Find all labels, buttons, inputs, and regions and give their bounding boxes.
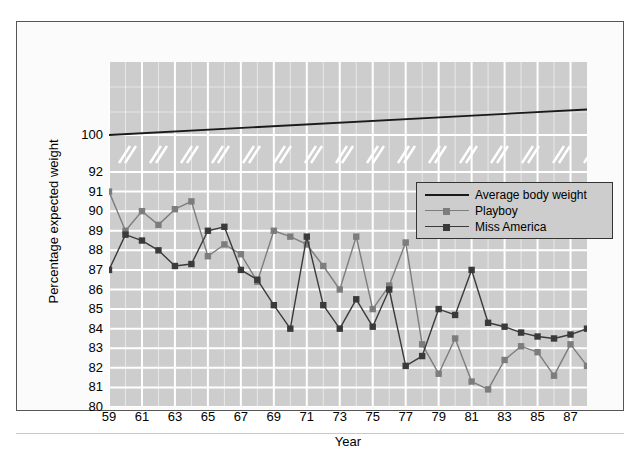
y-axis-tick-81: 81	[69, 380, 103, 393]
legend-swatch-playboy-icon	[423, 204, 471, 218]
figure-page: 80818283848586878889909192100 Average bo…	[0, 0, 642, 449]
x-axis-tick-labels: 596163656769717375777981838587	[109, 410, 587, 430]
axis-break-marks	[119, 146, 587, 163]
x-axis-tick-61: 61	[127, 410, 157, 423]
x-axis-title: Year	[109, 434, 587, 449]
x-axis-tick-65: 65	[193, 410, 223, 423]
legend-swatch-miss-america-icon	[423, 220, 471, 234]
y-axis-tick-83: 83	[69, 341, 103, 354]
y-axis-tick-labels: 80818283848586878889909192100	[63, 62, 103, 407]
legend-item-playboy: Playboy	[423, 203, 606, 219]
chart-legend: Average body weightPlayboyMiss America	[416, 182, 613, 239]
y-axis-tick-91: 91	[69, 185, 103, 198]
legend-label-miss-america: Miss America	[471, 220, 546, 234]
x-axis-tick-87: 87	[556, 410, 586, 423]
x-axis-tick-81: 81	[457, 410, 487, 423]
x-axis-tick-71: 71	[292, 410, 322, 423]
page-divider-rule	[16, 433, 624, 434]
x-axis-tick-83: 83	[490, 410, 520, 423]
y-axis-tick-89: 89	[69, 224, 103, 237]
x-axis-tick-63: 63	[160, 410, 190, 423]
x-axis-tick-59: 59	[94, 410, 124, 423]
y-axis-tick-85: 85	[69, 302, 103, 315]
series-average-body-weight	[109, 110, 587, 136]
y-axis-tick-86: 86	[69, 283, 103, 296]
legend-label-playboy: Playboy	[471, 204, 518, 218]
y-axis-title: Percentage expected weight	[46, 112, 61, 332]
legend-label-average-body-weight: Average body weight	[471, 188, 587, 202]
legend-item-miss-america: Miss America	[423, 219, 606, 235]
legend-swatch-average-body-weight-icon	[423, 188, 471, 202]
y-axis-tick-87: 87	[69, 263, 103, 276]
x-axis-tick-77: 77	[391, 410, 421, 423]
x-axis-tick-67: 67	[226, 410, 256, 423]
x-axis-tick-73: 73	[325, 410, 355, 423]
y-axis-tick-82: 82	[69, 361, 103, 374]
x-axis-tick-75: 75	[358, 410, 388, 423]
y-axis-tick-100: 100	[69, 128, 103, 141]
y-axis-tick-90: 90	[69, 204, 103, 217]
legend-item-average-body-weight: Average body weight	[423, 187, 606, 203]
x-axis-tick-69: 69	[259, 410, 289, 423]
y-axis-tick-88: 88	[69, 243, 103, 256]
figure-frame: 80818283848586878889909192100 Average bo…	[16, 21, 624, 411]
y-axis-tick-92: 92	[69, 165, 103, 178]
x-axis-tick-79: 79	[424, 410, 454, 423]
x-axis-tick-85: 85	[523, 410, 553, 423]
y-axis-tick-84: 84	[69, 322, 103, 335]
